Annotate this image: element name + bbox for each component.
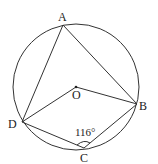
segment-do	[22, 87, 76, 122]
label-o: O	[72, 88, 81, 102]
angle-label: 116°	[75, 126, 96, 138]
label-a: A	[58, 10, 67, 24]
label-d: D	[8, 117, 17, 131]
label-b: B	[139, 99, 147, 113]
segment-ob	[76, 87, 137, 104]
label-c: C	[80, 151, 88, 164]
geometry-diagram: A B C D O 116°	[0, 0, 158, 164]
segment-ad	[22, 25, 63, 122]
